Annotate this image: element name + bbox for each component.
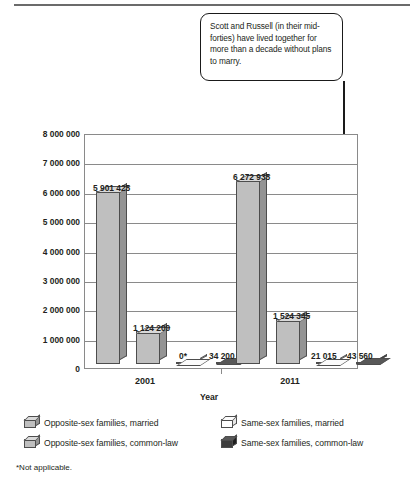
- x-category-label-2011: 2011: [255, 376, 325, 386]
- gridline: [85, 164, 357, 165]
- bar-front-face: [96, 191, 120, 364]
- bar-value-label-2011-opposite-sex-married: 6 272 935: [233, 172, 270, 182]
- legend-label: Opposite-sex families, married: [44, 418, 159, 428]
- bar-2011-same-sex-married[interactable]: [316, 363, 340, 364]
- top-horizontal-rule: [14, 4, 410, 6]
- bar-front-face: [236, 180, 260, 364]
- bar-2001-opposite-sex-married[interactable]: [96, 191, 120, 364]
- bar-2001-same-sex-married[interactable]: [176, 363, 200, 364]
- bar-side-face: [260, 172, 267, 360]
- legend-swatch-gray-icon: [24, 419, 36, 428]
- bar-2011-opposite-sex-married[interactable]: [236, 180, 260, 364]
- chart-plot-area: 5 901 425 1 124 200 0* 34 200 6 272 935 …: [84, 134, 358, 369]
- bar-value-label-2011-opposite-sex-common-law: 1 524 345: [273, 311, 310, 321]
- x-axis-title: Year: [0, 392, 418, 402]
- y-axis-tick-labels: 0 1 000 000 2 000 000 3 000 000 4 000 00…: [8, 134, 80, 369]
- legend-label: Same-sex families, married: [241, 418, 344, 428]
- annotation-callout-text: Scott and Russell (in their mid-forties)…: [210, 21, 334, 67]
- legend-item-opposite-sex-common-law[interactable]: Opposite-sex families, common-law: [24, 437, 178, 448]
- legend-item-same-sex-common-law[interactable]: Same-sex families, common-law: [221, 437, 363, 448]
- bar-side-face: [120, 183, 127, 360]
- bar-value-label-2001-opposite-sex-married: 5 901 425: [93, 183, 130, 193]
- bar-front-face: [136, 331, 160, 364]
- bar-2001-opposite-sex-common-law[interactable]: [136, 331, 160, 364]
- legend-item-same-sex-married[interactable]: Same-sex families, married: [221, 417, 344, 428]
- bar-value-label-2001-opposite-sex-common-law: 1 124 200: [133, 323, 170, 333]
- bar-value-label-2011-same-sex-common-law: 43 560: [347, 351, 373, 361]
- legend-item-opposite-sex-married[interactable]: Opposite-sex families, married: [24, 417, 159, 428]
- y-tick-label: 2 000 000: [10, 305, 80, 315]
- chart-footnote: *Not applicable.: [16, 463, 72, 472]
- y-tick-label: 5 000 000: [10, 217, 80, 227]
- x-category-label-2001: 2001: [110, 376, 180, 386]
- y-tick-label: 7 000 000: [10, 158, 80, 168]
- y-tick-label: 3 000 000: [10, 276, 80, 286]
- chart-legend: Opposite-sex families, married Same-sex …: [24, 417, 404, 457]
- legend-swatch-gray-icon: [24, 439, 36, 448]
- bar-2011-same-sex-common-law[interactable]: [356, 362, 380, 364]
- legend-swatch-white-icon: [221, 419, 233, 428]
- y-tick-label: 8 000 000: [10, 129, 80, 139]
- legend-label: Same-sex families, common-law: [241, 438, 363, 448]
- bar-value-label-2011-same-sex-married: 21 015: [311, 351, 337, 361]
- legend-swatch-dark-icon: [221, 439, 233, 448]
- y-tick-label: 1 000 000: [10, 335, 80, 345]
- y-tick-label: 4 000 000: [10, 247, 80, 257]
- y-tick-label: 0: [10, 364, 80, 374]
- y-tick-label: 6 000 000: [10, 188, 80, 198]
- bar-value-label-2001-same-sex-common-law: 34 200: [209, 351, 235, 361]
- legend-label: Opposite-sex families, common-law: [44, 438, 178, 448]
- bar-2011-opposite-sex-common-law[interactable]: [276, 319, 300, 364]
- annotation-callout: Scott and Russell (in their mid-forties)…: [200, 13, 343, 81]
- bar-value-label-2001-same-sex-married: 0*: [179, 351, 187, 361]
- bar-front-face: [276, 319, 300, 364]
- x-axis-tick: [221, 369, 222, 374]
